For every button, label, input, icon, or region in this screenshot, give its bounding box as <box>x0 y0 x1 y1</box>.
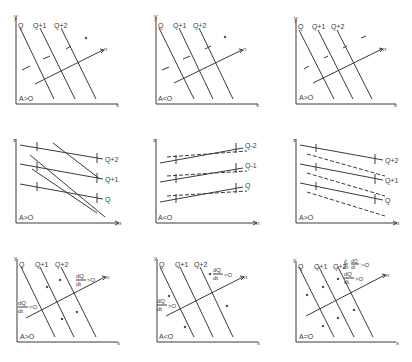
tendency-numerator: dQ <box>157 298 165 304</box>
tendency-dot <box>209 273 211 275</box>
panel-r3c3: y Q Q+1 Q+2 ∂ ∂n dQ dt >O dQ dt >O n A=O… <box>275 245 412 362</box>
curve-label-q2: Q+2 <box>331 23 345 31</box>
y-axis-label: y <box>14 255 17 261</box>
panel-r2c1: z Q+2 Q+1 Q A>O n <box>0 125 140 245</box>
tendency-denominator: dt <box>213 275 218 281</box>
n-axis-label: n <box>118 220 121 226</box>
curve-label-q2: Q+2 <box>105 156 119 164</box>
profile-q <box>160 187 243 202</box>
tendency-dot <box>306 294 308 296</box>
condition-label: A>O <box>20 333 35 340</box>
isoline-q <box>159 28 194 99</box>
n-vector <box>174 50 242 83</box>
curve-label-q: Q <box>158 22 164 30</box>
curve-label-q: Q <box>18 22 24 30</box>
reference-line <box>53 143 100 179</box>
condition-label: A>O <box>299 94 314 101</box>
x-axis-label: x <box>257 340 260 346</box>
curve-label-q2: Q+2 <box>193 22 207 30</box>
tendency-dot <box>226 305 228 307</box>
isoline-q2 <box>61 28 96 99</box>
curve-label-q: Q <box>19 261 25 269</box>
curve-label-q1: Q+1 <box>105 176 119 184</box>
tendency-dot <box>337 317 339 319</box>
curve-label-q1: Q+1 <box>312 23 326 31</box>
flow-arrow <box>183 56 190 59</box>
tendency-numerator: dQ <box>344 271 352 277</box>
curve-label-q: Q <box>105 196 111 204</box>
curve-label-q: Q <box>298 263 304 271</box>
curve-label-q1: Q+1 <box>385 177 399 185</box>
curve-label-q1: Q+1 <box>35 261 49 269</box>
isoline-q2 <box>199 28 233 99</box>
n-axis-label: n <box>256 220 259 226</box>
panel-r1c1: y Q Q+1 Q+2 n A>O x <box>0 0 140 120</box>
panel-r2c2: z Q-2 Q-1 Q A<O n <box>140 125 280 245</box>
condition-label: A<O <box>158 95 173 102</box>
tendency-dot <box>61 318 63 320</box>
flow-arrow <box>22 66 30 70</box>
n-vector <box>166 277 243 316</box>
curve-label-q1: Q-1 <box>245 162 257 170</box>
curve-label-q: Q <box>159 261 165 269</box>
curve-label-q: Q <box>245 182 251 190</box>
tendency-denominator: dt <box>351 264 356 270</box>
curve-label-q2: Q+2 <box>54 22 68 30</box>
condition-label: A>O <box>19 214 34 221</box>
tendency-denominator: dt <box>18 308 23 314</box>
isoline-q <box>299 30 334 99</box>
tendency-relation: >O <box>355 276 364 282</box>
y-axis-label: y <box>154 13 158 21</box>
curve-label-q1: Q+1 <box>33 22 47 30</box>
curve-label-q2: Q+2 <box>55 261 69 269</box>
x-axis-label: x <box>256 102 259 108</box>
isoline-q1 <box>40 28 75 99</box>
y-axis-label: y <box>14 13 18 21</box>
tendency-relation: <O <box>224 272 233 278</box>
n-label: n <box>106 274 109 280</box>
isoline-q1 <box>179 28 213 99</box>
tendency-dot <box>184 326 186 328</box>
tendency-denominator: dt <box>157 306 162 312</box>
n-label: n <box>386 272 389 278</box>
tendency-dot <box>59 279 61 281</box>
panel-r1c3: y Q Q+1 Q+2 n A>O x <box>275 0 412 120</box>
x-axis-label: x <box>396 340 399 346</box>
n-label: n <box>244 274 247 280</box>
profile-q <box>20 184 103 199</box>
tendency-relation: >O <box>168 303 177 309</box>
flow-arrow <box>304 66 309 69</box>
z-axis-label: z <box>13 137 16 143</box>
panel-r3c1: y Q Q+1 Q+2 dQ dt >O dQ dt <O n A>O x <box>0 245 140 362</box>
tendency-dot <box>46 286 48 288</box>
tendency-denominator: dt <box>344 279 349 285</box>
isoline-q2 <box>337 30 372 99</box>
isoline-q <box>20 28 54 99</box>
n-vector <box>26 277 105 318</box>
x-axis-label: x <box>116 102 119 108</box>
x-axis-label: x <box>394 102 397 108</box>
tendency-numerator: dQ <box>76 273 84 279</box>
tendency-dot <box>322 286 324 288</box>
tendency-dot <box>168 295 170 297</box>
y-axis-label: y <box>294 15 298 23</box>
curve-label-q2: Q-2 <box>245 142 257 150</box>
n-label: n <box>243 46 246 52</box>
x-axis-label: x <box>117 340 120 346</box>
isoline-q <box>21 267 55 337</box>
y-axis-label: y <box>154 255 157 261</box>
panel-r1c2: y Q Q+1 Q+2 n A<O x <box>140 0 280 120</box>
tendency-relation: <O <box>29 304 38 310</box>
panel-r3c2: y Q Q+1 Q+2 dQ dt <O dQ dt >O n A<O x <box>140 245 280 362</box>
curve-label-q: Q <box>298 23 304 31</box>
curve-label-q1: Q+1 <box>175 261 189 269</box>
tendency-denominator: dt <box>76 281 81 287</box>
tendency-dot <box>337 278 339 280</box>
panel-r2c3: z Q+2 Q+1 Q A>O n <box>275 125 412 245</box>
flow-arrow <box>162 67 169 70</box>
profile-q2 <box>160 148 243 163</box>
isoline-q1 <box>318 30 353 99</box>
condition-label: A<O <box>159 333 174 340</box>
reference-line <box>307 192 385 216</box>
tendency-dot <box>322 325 324 327</box>
